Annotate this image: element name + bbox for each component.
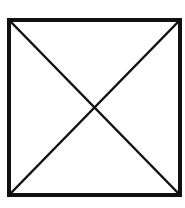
diagram-canvas — [0, 0, 185, 208]
